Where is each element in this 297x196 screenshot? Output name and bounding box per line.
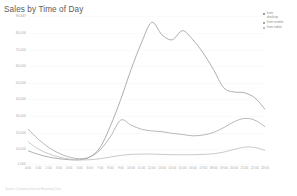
x-axis-tick-label: 17:00	[199, 166, 207, 171]
legend-item-tablet[interactable]: from tablet	[263, 26, 295, 30]
y-axis-tick-label: 40,000	[16, 97, 26, 101]
x-axis-tick-label: 8:00	[107, 166, 113, 171]
legend-swatch-icon	[263, 27, 265, 29]
footer-note: Source: Company Internal Reporting Data	[5, 187, 61, 191]
x-axis-tick-label: 2:00	[45, 166, 51, 171]
x-axis-tick-label: 1:00	[35, 166, 41, 171]
x-axis-tick-label: 13:00	[158, 166, 166, 171]
legend-item-label: from mobile	[267, 21, 284, 25]
y-axis-tick-label: 20,000	[16, 131, 26, 135]
x-axis-tick-label: 3:00	[56, 166, 62, 171]
x-axis-tick-label: 23:00	[261, 166, 269, 171]
y-axis-tick-label: 50,000	[16, 81, 26, 85]
series-line-from-mobile	[28, 118, 265, 158]
x-axis-tick-label: 0:00	[25, 166, 31, 171]
gridline	[28, 164, 265, 165]
x-axis-tick-label: 19:00	[220, 166, 228, 171]
chart-legend: from desktopfrom mobilefrom tablet	[263, 12, 295, 32]
x-axis-tick-label: 22:00	[251, 166, 259, 171]
x-axis-tick-label: 7:00	[97, 166, 103, 171]
y-axis-tick-label: 60,000	[16, 64, 26, 68]
x-axis-tick-label: 5:00	[76, 166, 82, 171]
x-axis-tick-label: 15:00	[179, 166, 187, 171]
x-axis-tick-label: 12:00	[148, 166, 156, 171]
y-axis-tick-label: 90,347	[16, 14, 26, 18]
y-axis-tick-label: 30,000	[16, 114, 26, 118]
y-axis-tick-label: 70,000	[16, 48, 26, 52]
x-axis-tick-label: 6:00	[87, 166, 93, 171]
y-axis-tick-label: 10,000	[16, 147, 26, 151]
plot-area	[28, 16, 265, 164]
legend-item-label: from desktop	[267, 12, 278, 20]
legend-item-desktop[interactable]: from desktop	[263, 12, 295, 20]
x-axis-tick-label: 10:00	[127, 166, 135, 171]
legend-item-mobile[interactable]: from mobile	[263, 21, 295, 25]
x-axis-tick-label: 14:00	[168, 166, 176, 171]
x-axis-tick-label: 18:00	[209, 166, 217, 171]
x-axis-tick-label: 4:00	[66, 166, 72, 171]
y-axis-tick-label: 80,000	[16, 31, 26, 35]
x-axis-tick-label: 20:00	[230, 166, 238, 171]
x-axis-tick-label: 16:00	[189, 166, 197, 171]
series-line-from-tablet	[28, 142, 265, 160]
x-axis-tick-label: 21:00	[240, 166, 248, 171]
x-axis-tick-label: 11:00	[137, 166, 145, 171]
series-line-from-desktop	[28, 22, 265, 160]
chart-container: Sales by Time of Day 90,34780,00070,0006…	[0, 0, 297, 196]
series-lines	[28, 16, 265, 164]
x-axis-tick-label: 9:00	[118, 166, 124, 171]
y-axis: 90,34780,00070,00060,00050,00040,00030,0…	[0, 16, 26, 164]
x-axis: 0:001:002:003:004:005:006:007:008:009:00…	[28, 166, 265, 174]
legend-swatch-icon	[263, 13, 265, 15]
legend-swatch-icon	[263, 22, 265, 24]
legend-item-label: from tablet	[267, 26, 282, 30]
